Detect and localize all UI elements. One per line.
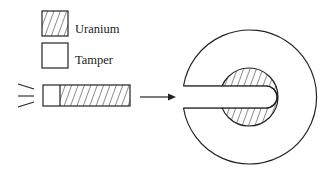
legend-uranium-swatch bbox=[42, 11, 68, 36]
motion-lines-icon bbox=[18, 84, 34, 107]
target-assembly bbox=[182, 30, 317, 164]
diagram-canvas bbox=[0, 0, 330, 172]
legend-tamper-swatch bbox=[42, 43, 68, 68]
arrow-right-icon bbox=[140, 94, 176, 101]
projectile bbox=[43, 85, 130, 106]
legend-tamper-label: Tamper bbox=[75, 53, 113, 68]
legend-uranium-label: Uranium bbox=[75, 22, 119, 37]
